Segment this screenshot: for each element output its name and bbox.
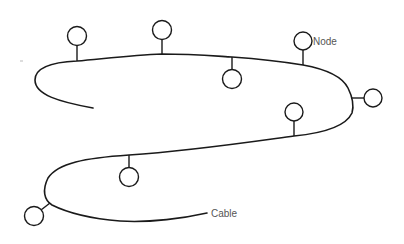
- cable-label: Cable: [211, 208, 238, 219]
- node-circle: [223, 70, 242, 89]
- node-7: [120, 155, 139, 187]
- node-2: [153, 21, 172, 55]
- node-5: [351, 89, 382, 107]
- node-circle: [285, 103, 303, 121]
- node-3: Node: [294, 32, 337, 65]
- node-4: [223, 57, 242, 89]
- node-circle: [120, 168, 139, 187]
- node-circle: [25, 207, 44, 226]
- node-6: [285, 103, 303, 136]
- node-8: [25, 203, 51, 226]
- cable-line: [35, 54, 353, 221]
- node-circle: [294, 32, 312, 50]
- node-circle: [364, 89, 382, 107]
- node-label: Node: [313, 36, 337, 47]
- bus-network-diagram: Node Cable: [0, 0, 404, 244]
- node-circle: [153, 21, 172, 40]
- node-1: [68, 27, 87, 62]
- node-stem: [41, 203, 50, 210]
- node-circle: [68, 27, 87, 46]
